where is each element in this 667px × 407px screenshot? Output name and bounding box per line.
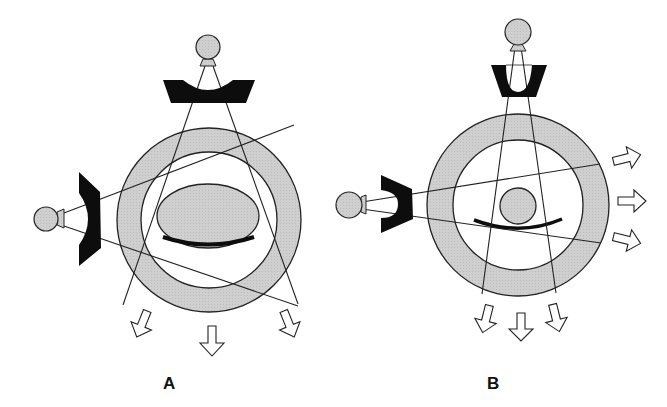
escape-arrows-right-b [611, 144, 646, 254]
top-source-b [505, 19, 531, 51]
arrow-right-up-icon [611, 144, 643, 172]
panel-label-a: A [163, 374, 175, 394]
arrow-down-icon [200, 326, 224, 356]
arrow-down-right-icon [274, 307, 305, 341]
left-collimator-a [79, 172, 101, 266]
arrow-right-icon [618, 190, 646, 212]
panel-b [336, 19, 646, 341]
top-collimator-b [491, 65, 547, 97]
panel-label-b: B [487, 374, 499, 394]
left-source-b [336, 192, 366, 218]
arrow-down-left-icon [472, 303, 500, 335]
top-collimator-a [163, 80, 255, 103]
top-source-a [196, 35, 220, 66]
panel-a [34, 35, 304, 356]
arrow-right-down-icon [611, 226, 643, 254]
escape-arrows-down-b [472, 302, 570, 341]
circular-phantom [500, 188, 536, 224]
arrow-down-right-icon [542, 302, 570, 334]
arrow-down-icon [509, 313, 533, 341]
left-source-a [34, 207, 64, 231]
diagram-canvas [0, 0, 667, 407]
left-collimator-b [381, 175, 413, 233]
escape-arrows-a [127, 307, 305, 356]
arrow-down-left-icon [127, 307, 158, 341]
